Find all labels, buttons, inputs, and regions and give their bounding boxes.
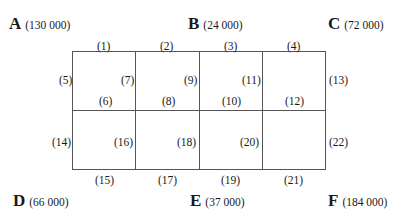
- edge-label-15: (15): [95, 174, 114, 186]
- node-a-letter: A: [9, 14, 21, 33]
- edge-label-12: (12): [285, 95, 304, 107]
- grid-line-v2: [199, 51, 200, 170]
- node-b: B(24 000): [188, 14, 243, 34]
- node-e: E(37 000): [190, 191, 245, 211]
- node-c-letter: C: [328, 14, 340, 33]
- node-d: D(66 000): [13, 191, 69, 211]
- edge-label-22: (22): [329, 136, 348, 148]
- edge-label-2: (2): [160, 40, 173, 52]
- grid-line-right: [325, 51, 326, 170]
- edge-label-14: (14): [52, 136, 71, 148]
- node-e-letter: E: [190, 191, 201, 210]
- edge-label-21: (21): [284, 174, 303, 186]
- edge-label-8: (8): [162, 95, 175, 107]
- edge-label-18: (18): [177, 136, 196, 148]
- edge-label-5: (5): [59, 74, 72, 86]
- node-a: A(130 000): [9, 14, 70, 34]
- edge-label-13: (13): [329, 74, 348, 86]
- edge-label-7: (7): [121, 74, 134, 86]
- node-d-letter: D: [13, 191, 25, 210]
- node-c: C(72 000): [328, 14, 384, 34]
- edge-label-4: (4): [287, 40, 300, 52]
- node-f-value: (184 000): [342, 196, 387, 208]
- edge-label-19: (19): [221, 174, 240, 186]
- node-f-letter: F: [328, 191, 338, 210]
- node-b-letter: B: [188, 14, 199, 33]
- node-e-value: (37 000): [205, 196, 244, 208]
- node-a-value: (130 000): [25, 19, 70, 31]
- edge-label-16: (16): [114, 136, 133, 148]
- edge-label-11: (11): [242, 74, 261, 86]
- edge-label-20: (20): [240, 136, 259, 148]
- node-c-value: (72 000): [344, 19, 383, 31]
- edge-label-6: (6): [99, 95, 112, 107]
- edge-label-17: (17): [158, 174, 177, 186]
- grid-line-v1: [135, 51, 136, 170]
- edge-label-1: (1): [97, 40, 110, 52]
- edge-label-10: (10): [222, 95, 241, 107]
- node-f: F(184 000): [328, 191, 387, 211]
- node-b-value: (24 000): [203, 19, 242, 31]
- edge-label-3: (3): [224, 40, 237, 52]
- grid-line-left: [72, 51, 73, 170]
- grid-line-v3: [262, 51, 263, 170]
- node-d-value: (66 000): [29, 196, 68, 208]
- edge-label-9: (9): [184, 74, 197, 86]
